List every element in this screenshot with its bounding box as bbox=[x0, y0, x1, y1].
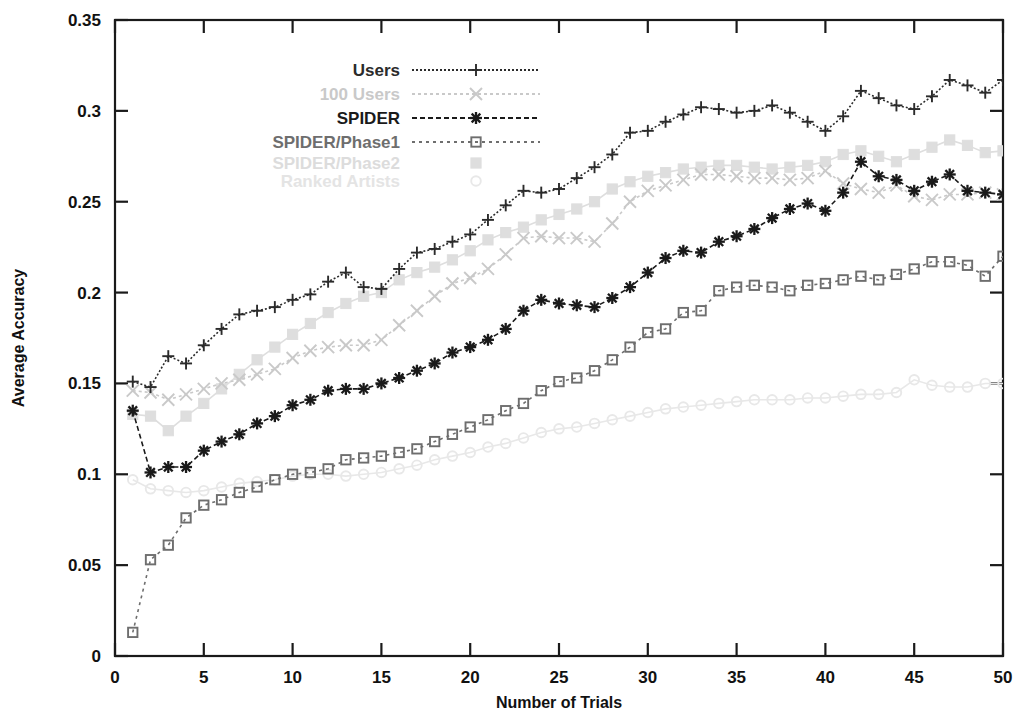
y-axis-tick-label: 0.3 bbox=[77, 102, 101, 121]
marker-square bbox=[412, 444, 421, 453]
y-axis-title: Average Accuracy bbox=[10, 269, 27, 408]
marker-square-filled bbox=[288, 329, 298, 339]
series-line bbox=[133, 380, 1003, 493]
legend-item-ranked-artists: Ranked Artists bbox=[281, 172, 481, 191]
marker-square-filled bbox=[572, 204, 582, 214]
marker-square-filled bbox=[945, 135, 955, 145]
x-axis-tick-label: 30 bbox=[638, 668, 657, 687]
marker-square-filled bbox=[678, 164, 688, 174]
plot-area bbox=[127, 74, 1009, 637]
series-ranked-artists bbox=[128, 375, 1008, 497]
marker-square-filled bbox=[199, 398, 209, 408]
marker-square-filled bbox=[767, 164, 777, 174]
x-axis-tick-label: 50 bbox=[994, 668, 1013, 687]
legend-item-users: Users bbox=[353, 61, 540, 80]
y-axis-tick-label: 0.15 bbox=[68, 374, 101, 393]
series-line bbox=[133, 80, 1003, 387]
marker-square-filled bbox=[323, 307, 333, 317]
marker-square-filled bbox=[625, 177, 635, 187]
marker-square-filled bbox=[749, 162, 759, 172]
marker-square-filled bbox=[430, 262, 440, 272]
series-line bbox=[133, 162, 1003, 473]
marker-square-filled bbox=[252, 355, 262, 365]
x-axis-tick-label: 15 bbox=[372, 668, 391, 687]
marker-square-filled bbox=[660, 168, 670, 178]
marker-square-filled bbox=[803, 160, 813, 170]
legend-item-spider: SPIDER bbox=[337, 109, 540, 128]
marker-square-filled bbox=[714, 160, 724, 170]
marker-square-filled bbox=[785, 162, 795, 172]
marker-square-filled bbox=[163, 426, 173, 436]
marker-square bbox=[910, 264, 919, 273]
y-axis-tick-label: 0.25 bbox=[68, 193, 101, 212]
x-axis-tick-label: 20 bbox=[461, 668, 480, 687]
y-axis-tick-label: 0.05 bbox=[68, 556, 101, 575]
marker-square-filled bbox=[643, 171, 653, 181]
marker-square-filled bbox=[607, 184, 617, 194]
x-axis-tick-label: 25 bbox=[550, 668, 569, 687]
legend-label: 100 Users bbox=[320, 85, 400, 104]
x-axis-tick-label: 5 bbox=[199, 668, 208, 687]
x-axis-tick-label: 35 bbox=[727, 668, 746, 687]
series-line bbox=[133, 171, 1003, 400]
marker-square-filled bbox=[447, 255, 457, 265]
marker-square-filled bbox=[483, 235, 493, 245]
marker-square-filled bbox=[909, 149, 919, 159]
marker-square bbox=[554, 377, 563, 386]
y-axis-tick-label: 0.1 bbox=[77, 465, 101, 484]
marker-square-filled bbox=[270, 342, 280, 352]
marker-square-filled bbox=[216, 384, 226, 394]
legend-label: Ranked Artists bbox=[281, 172, 400, 191]
marker-square-filled bbox=[518, 222, 528, 232]
legend-label: Users bbox=[353, 61, 400, 80]
marker-square-filled bbox=[412, 267, 422, 277]
legend-label: SPIDER/Phase2 bbox=[272, 154, 400, 173]
marker-square-filled bbox=[891, 157, 901, 167]
marker-square-filled bbox=[856, 146, 866, 156]
marker-square-filled bbox=[394, 275, 404, 285]
marker-square-filled bbox=[305, 318, 315, 328]
plot-frame bbox=[115, 20, 1003, 656]
chart-figure: 00.050.10.150.20.250.30.3505101520253035… bbox=[0, 0, 1029, 722]
legend-label: SPIDER/Phase1 bbox=[272, 133, 400, 152]
series-spider bbox=[127, 156, 1009, 479]
marker-square-filled bbox=[962, 140, 972, 150]
marker-square-filled bbox=[998, 146, 1008, 156]
marker-square-filled bbox=[554, 209, 564, 219]
marker-circle bbox=[128, 475, 138, 485]
series-spider-phase1 bbox=[128, 252, 1008, 638]
marker-square-filled bbox=[181, 411, 191, 421]
legend-item-spider-phase1: SPIDER/Phase1 bbox=[272, 133, 540, 152]
marker-square-filled bbox=[465, 246, 475, 256]
x-axis-tick-label: 0 bbox=[110, 668, 119, 687]
x-axis-tick-label: 40 bbox=[816, 668, 835, 687]
marker-square-filled bbox=[820, 157, 830, 167]
y-axis-tick-label: 0.35 bbox=[68, 11, 101, 30]
legend-item-spider-phase2: SPIDER/Phase2 bbox=[272, 154, 481, 173]
marker-square-filled bbox=[980, 148, 990, 158]
marker-square-filled bbox=[732, 160, 742, 170]
legend-item-100-users: 100 Users bbox=[320, 85, 540, 104]
marker-square-filled bbox=[341, 298, 351, 308]
x-axis-tick-label: 10 bbox=[283, 668, 302, 687]
legend-label: SPIDER bbox=[337, 109, 400, 128]
marker-square bbox=[448, 430, 457, 439]
marker-square bbox=[466, 422, 475, 431]
marker-square-filled bbox=[145, 411, 155, 421]
x-axis-title: Number of Trials bbox=[496, 694, 622, 711]
y-axis-tick-label: 0.2 bbox=[77, 284, 101, 303]
chart-svg: 00.050.10.150.20.250.30.3505101520253035… bbox=[0, 0, 1029, 722]
marker-square-filled bbox=[838, 149, 848, 159]
series-line bbox=[133, 256, 1003, 632]
marker-square-filled bbox=[501, 228, 511, 238]
marker-circle bbox=[471, 176, 481, 186]
y-axis-tick-label: 0 bbox=[92, 647, 101, 666]
marker-square-filled bbox=[589, 197, 599, 207]
marker-square-filled bbox=[927, 142, 937, 152]
marker-square-filled bbox=[874, 151, 884, 161]
marker-square-filled bbox=[536, 215, 546, 225]
marker-square-filled bbox=[471, 158, 481, 168]
x-axis-tick-label: 45 bbox=[905, 668, 924, 687]
series-users bbox=[127, 74, 1009, 393]
